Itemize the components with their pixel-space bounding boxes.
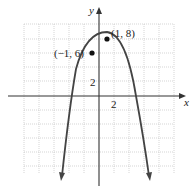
left-arrow-head-icon xyxy=(59,172,65,181)
y-tick-label: 2 xyxy=(90,76,96,88)
right-arrow-head-icon xyxy=(146,172,152,181)
point-a-label: (−1, 6) xyxy=(54,47,84,60)
y-axis-arrow-icon xyxy=(96,7,102,14)
parabola-graph: (1, 8) (−1, 6) 2 2 x y xyxy=(0,0,190,188)
y-axis-label: y xyxy=(88,4,94,16)
x-tick-label: 2 xyxy=(111,98,117,110)
axes xyxy=(8,10,183,186)
point-b-label: (1, 8) xyxy=(111,27,135,40)
x-axis-label: x xyxy=(183,96,189,108)
point-1-8 xyxy=(104,36,109,41)
point-minus1-6 xyxy=(89,50,94,55)
